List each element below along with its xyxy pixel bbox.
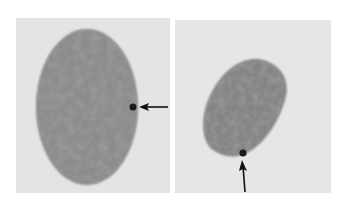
arrow-left-icon (139, 103, 168, 111)
arrow-up-icon (239, 160, 247, 192)
dark-spot (240, 150, 247, 157)
nucleus-right (175, 20, 331, 193)
micrograph-panel-left (16, 18, 170, 193)
nucleus-left (16, 18, 170, 193)
micrograph-panel-right (175, 20, 331, 193)
dark-spot (130, 104, 137, 111)
